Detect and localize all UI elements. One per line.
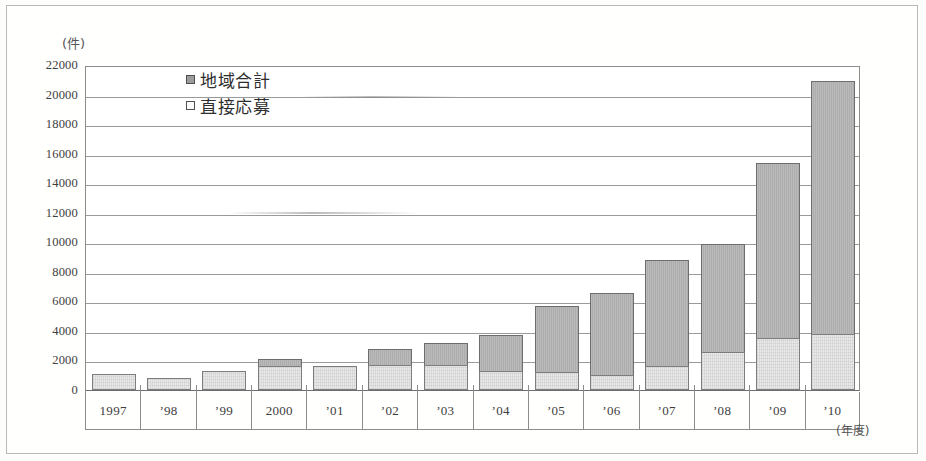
bar-segment-direct[interactable]: [258, 366, 302, 390]
x-axis-tick: [417, 385, 418, 392]
bar-group[interactable]: [701, 65, 745, 390]
bar-segment-direct[interactable]: [811, 334, 855, 390]
x-axis-category-label: ’09: [768, 403, 786, 419]
x-axis-category-label: ’04: [492, 403, 510, 419]
x-axis-category-label: ’08: [713, 403, 731, 419]
bar-segment-direct[interactable]: [701, 352, 745, 390]
x-axis-category-06[interactable]: ’06: [583, 392, 638, 430]
legend-item-total: 地域合計: [186, 66, 270, 92]
bar-segment-direct[interactable]: [590, 375, 634, 390]
x-axis-tick: [639, 385, 640, 392]
bar-segment-direct[interactable]: [147, 378, 191, 390]
bar-segment-direct[interactable]: [92, 374, 136, 390]
filled-square-icon: [186, 75, 195, 84]
x-axis-category-label: ’98: [159, 403, 177, 419]
empty-square-icon: [186, 101, 195, 110]
x-axis-category-label: ’99: [215, 403, 233, 419]
x-axis-category-08[interactable]: ’08: [694, 392, 749, 430]
x-axis-category-99[interactable]: ’99: [196, 392, 251, 430]
bar-group[interactable]: [645, 65, 689, 390]
x-axis-unit-label: (年度): [836, 421, 869, 438]
x-axis-category-98[interactable]: ’98: [140, 392, 195, 430]
bar-group[interactable]: [147, 65, 191, 390]
x-axis-tick: [306, 385, 307, 392]
bar-group[interactable]: [535, 65, 579, 390]
x-axis-category-03[interactable]: ’03: [417, 392, 472, 430]
x-axis-tick: [749, 385, 750, 392]
legend-label-direct: 直接応募: [200, 93, 270, 118]
x-axis-tick: [583, 385, 584, 392]
x-axis-category-1997[interactable]: 1997: [85, 392, 140, 430]
x-axis-category-05[interactable]: ’05: [528, 392, 583, 430]
x-axis-category-02[interactable]: ’02: [362, 392, 417, 430]
x-axis-tick: [473, 385, 474, 392]
x-axis-category-row: 1997’98’992000’01’02’03’04’05’06’07’08’0…: [85, 392, 860, 430]
bar-group[interactable]: [479, 65, 523, 390]
bar-group[interactable]: [590, 65, 634, 390]
bar-group[interactable]: [92, 65, 136, 390]
x-axis-category-label: ’07: [658, 403, 676, 419]
bar-group[interactable]: [424, 65, 468, 390]
x-axis-tick: [805, 385, 806, 392]
x-axis-category-label: 2000: [266, 403, 293, 419]
bar-segment-direct[interactable]: [368, 365, 412, 390]
bar-segment-direct[interactable]: [202, 371, 246, 390]
x-axis-category-label: ’10: [823, 403, 841, 419]
x-axis-category-label: 1997: [100, 403, 127, 419]
x-axis-tick: [196, 385, 197, 392]
bar-segment-direct[interactable]: [756, 338, 800, 390]
x-axis-category-label: ’06: [602, 403, 620, 419]
bar-segment-direct[interactable]: [645, 366, 689, 390]
bar-group[interactable]: [756, 65, 800, 390]
bar-group[interactable]: [811, 65, 855, 390]
x-axis-category-04[interactable]: ’04: [473, 392, 528, 430]
x-axis-tick: [140, 385, 141, 392]
x-axis-category-label: ’05: [547, 403, 565, 419]
bar-group[interactable]: [313, 65, 357, 390]
x-axis-category-label: ’02: [381, 403, 399, 419]
bar-group[interactable]: [368, 65, 412, 390]
scan-artifact: [300, 96, 460, 98]
x-axis-tick: [528, 385, 529, 392]
bar-segment-direct[interactable]: [313, 366, 357, 390]
x-axis-category-07[interactable]: ’07: [639, 392, 694, 430]
bar-segment-direct[interactable]: [479, 371, 523, 390]
x-axis-category-label: ’03: [436, 403, 454, 419]
x-axis-tick: [85, 385, 86, 392]
bar-segment-direct[interactable]: [535, 372, 579, 390]
legend-label-total: 地域合計: [200, 67, 270, 92]
x-axis-tick: [362, 385, 363, 392]
x-axis-tick: [694, 385, 695, 392]
chart-legend: 地域合計 直接応募: [186, 66, 270, 118]
x-axis-category-09[interactable]: ’09: [749, 392, 804, 430]
x-axis-category-01[interactable]: ’01: [306, 392, 361, 430]
legend-item-direct: 直接応募: [186, 92, 270, 118]
y-axis-unit-label: (件): [62, 33, 85, 52]
x-axis-tick: [251, 385, 252, 392]
x-axis-category-2000[interactable]: 2000: [251, 392, 306, 430]
bar-segment-direct[interactable]: [424, 365, 468, 390]
x-axis-category-label: ’01: [325, 403, 343, 419]
scan-artifact: [228, 212, 418, 214]
